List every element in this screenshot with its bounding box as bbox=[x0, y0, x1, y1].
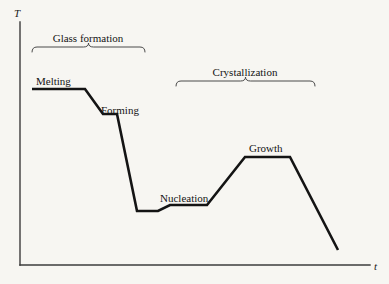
glass-formation-brace bbox=[32, 43, 145, 52]
crystallization-label: Crystallization bbox=[213, 67, 278, 78]
process-diagram-figure: T t Glass formation Crystallization Melt… bbox=[0, 0, 389, 284]
nucleation-label: Nucleation bbox=[160, 193, 208, 204]
axes-group bbox=[20, 22, 370, 265]
glass-formation-label: Glass formation bbox=[53, 33, 124, 44]
forming-label: Forming bbox=[101, 105, 139, 116]
y-axis-label: T bbox=[14, 8, 20, 19]
brace-group bbox=[32, 43, 315, 86]
x-axis-label: t bbox=[374, 261, 377, 272]
temperature-process-curve bbox=[32, 89, 338, 250]
crystallization-brace bbox=[176, 77, 315, 86]
growth-label: Growth bbox=[249, 143, 283, 154]
melting-label: Melting bbox=[36, 76, 71, 87]
